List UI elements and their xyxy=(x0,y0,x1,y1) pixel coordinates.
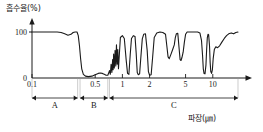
region-label-B: B xyxy=(91,100,97,110)
x-tick-label: 1 xyxy=(120,80,124,89)
region-arrow-left xyxy=(80,96,84,101)
x-tick-group: 0.10.512510 xyxy=(27,74,217,89)
region-arrow-left xyxy=(32,96,36,101)
region-label-C: C xyxy=(171,100,177,110)
region-span-group: ABC xyxy=(32,78,238,110)
y-axis: 100 0 xyxy=(15,18,35,83)
region-arrow-right xyxy=(74,96,78,101)
region-arrow-left xyxy=(109,96,113,101)
region-arrow-right xyxy=(104,96,108,101)
x-axis: 0.10.512510 xyxy=(27,74,252,89)
y-tick-label-100: 100 xyxy=(15,28,27,37)
region-arrow-right xyxy=(234,96,238,101)
y-axis-label: 흡수율(%) xyxy=(6,2,41,13)
x-tick-label: 5 xyxy=(184,80,188,89)
absorption-spectrum-figure: 흡수율(%) 파장(㎛) 100 0 0.10.512510 ABC xyxy=(0,0,263,132)
x-axis-label: 파장(㎛) xyxy=(188,112,216,123)
chart-plot-area: 100 0 0.10.512510 ABC xyxy=(0,0,263,132)
x-tick-label: 10 xyxy=(209,80,217,89)
region-label-A: A xyxy=(52,100,59,110)
absorption-curve xyxy=(32,32,238,77)
x-tick-label: 0.5 xyxy=(90,80,100,89)
x-tick-label: 2 xyxy=(148,80,152,89)
